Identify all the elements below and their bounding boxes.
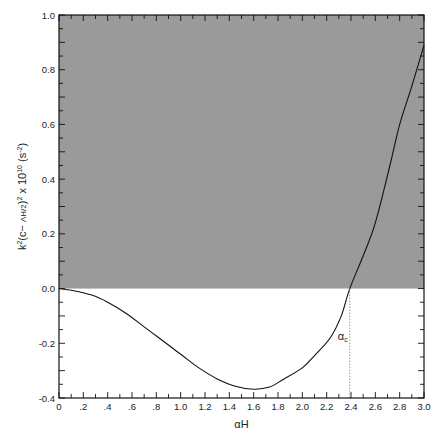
y-tick-label: 0.4 <box>42 174 55 185</box>
alpha-subscript: c <box>344 336 348 343</box>
y-tick-label: -0.4 <box>39 393 55 404</box>
x-tick-label: .4 <box>104 401 112 412</box>
y-tick-label: -0.2 <box>39 338 55 349</box>
y-tick-label: 0.2 <box>42 228 55 239</box>
ylabel-fraction: ΛH/2 <box>19 204 28 222</box>
y-tick-label: 0.6 <box>42 119 55 130</box>
x-tick-label: 1.4 <box>223 401 236 412</box>
x-tick-labels: 0.2.4.6.81.01.21.41.61.82.02.22.42.62.83… <box>56 401 430 412</box>
x-tick-label: 2.8 <box>393 401 406 412</box>
ylabel-sup10: 10 <box>16 165 23 173</box>
ylabel-c: (c− <box>16 222 28 241</box>
x-tick-label: .2 <box>79 401 87 412</box>
ylabel-units: (s <box>16 152 28 165</box>
chart: 0.2.4.6.81.01.21.41.61.82.02.22.42.62.83… <box>0 0 439 441</box>
ylabel-close: ) <box>16 143 28 147</box>
x-tick-label: .8 <box>152 401 160 412</box>
y-tick-label: 0.0 <box>42 283 55 294</box>
x-tick-label: 3.0 <box>417 401 430 412</box>
shade-rect <box>59 15 424 289</box>
y-axis-label: k2(c− ΛH/2)2 x 1010 (s-2) <box>16 143 28 250</box>
y-tick-labels: 1.00.80.60.40.20.0-0.2-0.4 <box>39 10 55 404</box>
x-tick-label: 1.2 <box>198 401 211 412</box>
alpha-c-annotation: αc <box>338 330 348 343</box>
x-tick-label: 1.8 <box>271 401 284 412</box>
ylabel-times: x 10 <box>16 173 28 197</box>
x-tick-label: 1.6 <box>247 401 260 412</box>
y-tick-label: 1.0 <box>42 10 55 21</box>
x-tick-label: 2.2 <box>320 401 333 412</box>
x-tick-label: 1.0 <box>174 401 187 412</box>
x-tick-label: 2.4 <box>344 401 357 412</box>
x-axis-label: αH <box>234 418 248 430</box>
x-tick-label: .6 <box>128 401 136 412</box>
x-tick-label: 2.6 <box>369 401 382 412</box>
svg-text:k2(c− ΛH/2)2 x 1010 (s-2): k2(c− ΛH/2)2 x 1010 (s-2) <box>16 143 28 250</box>
x-tick-label: 0 <box>56 401 61 412</box>
x-tick-label: 2.0 <box>296 401 309 412</box>
shaded-region <box>59 15 424 289</box>
y-tick-label: 0.8 <box>42 64 55 75</box>
